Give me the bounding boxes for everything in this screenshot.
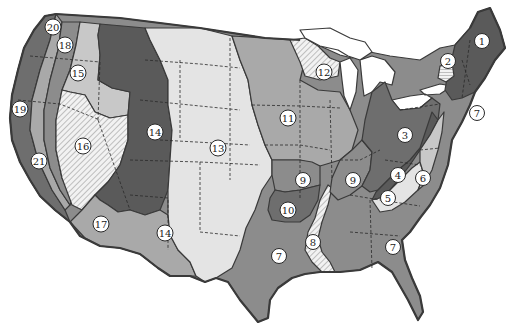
region-label-1: 1	[475, 34, 490, 49]
region-label-3: 3	[398, 128, 413, 143]
label-number: 15	[72, 68, 85, 79]
region-label-10: 10	[280, 202, 296, 218]
label-number: 21	[33, 156, 46, 167]
region-label-2: 2	[441, 54, 456, 69]
map-canvas: 12345677789910111213141415161718192021	[0, 0, 513, 331]
region-label-12: 12	[316, 64, 332, 80]
us-region-map: 12345677789910111213141415161718192021	[0, 0, 513, 331]
label-number: 7	[390, 242, 396, 253]
region-label-11: 11	[280, 110, 296, 126]
label-number: 3	[402, 130, 408, 141]
region-label-14: 14	[147, 124, 163, 140]
label-number: 17	[95, 219, 108, 230]
label-number: 18	[59, 40, 72, 51]
region-label-20: 20	[45, 19, 61, 35]
label-number: 16	[77, 141, 90, 152]
label-number: 5	[385, 193, 391, 204]
region-label-9: 9	[296, 173, 311, 188]
label-number: 14	[149, 127, 162, 138]
region-label-7: 7	[272, 249, 287, 264]
region-label-18: 18	[57, 37, 73, 53]
region-label-16: 16	[75, 138, 91, 154]
label-number: 13	[212, 143, 225, 154]
label-number: 10	[282, 205, 295, 216]
label-number: 7	[474, 108, 480, 119]
region-label-4: 4	[391, 168, 406, 183]
label-number: 6	[420, 173, 426, 184]
region-label-7: 7	[386, 240, 401, 255]
label-number: 9	[300, 175, 306, 186]
label-number: 14	[159, 228, 172, 239]
label-number: 8	[310, 237, 316, 248]
label-number: 11	[282, 113, 295, 124]
label-number: 1	[479, 36, 485, 47]
region-label-17: 17	[93, 216, 109, 232]
region-label-7: 7	[470, 106, 485, 121]
label-number: 20	[47, 22, 60, 33]
region-label-6: 6	[416, 171, 431, 186]
region-label-8: 8	[306, 235, 321, 250]
region-label-9: 9	[346, 173, 361, 188]
region-label-21: 21	[31, 153, 47, 169]
label-number: 2	[445, 56, 451, 67]
region-label-5: 5	[381, 191, 396, 206]
label-number: 19	[14, 104, 27, 115]
label-number: 7	[276, 251, 282, 262]
label-number: 9	[350, 175, 356, 186]
label-number: 4	[395, 170, 401, 181]
label-number: 12	[318, 67, 331, 78]
region-label-15: 15	[70, 65, 86, 81]
region-label-14: 14	[157, 225, 173, 241]
region-label-13: 13	[210, 140, 226, 156]
region-label-19: 19	[12, 101, 28, 117]
